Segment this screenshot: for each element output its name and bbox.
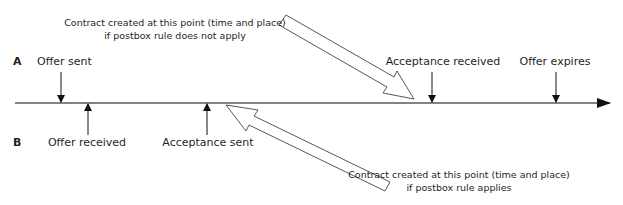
note-no-postbox: Contract created at this point (time and…: [64, 16, 286, 42]
note-no-postbox-line2: if postbox rule does not apply: [64, 29, 286, 42]
event-label-offer-sent: Offer sent: [37, 55, 92, 68]
event-label-offer-expires: Offer expires: [520, 55, 591, 68]
event-label-acceptance-received: Acceptance received: [386, 55, 501, 68]
event-label-acceptance-sent: Acceptance sent: [162, 136, 253, 149]
note-no-postbox-line1: Contract created at this point (time and…: [64, 16, 286, 29]
note-postbox-line1: Contract created at this point (time and…: [348, 168, 570, 181]
row-label-b: B: [13, 136, 21, 149]
row-label-a: A: [13, 55, 22, 68]
note-postbox-line2: if postbox rule applies: [348, 181, 570, 194]
note-postbox: Contract created at this point (time and…: [348, 168, 570, 194]
event-label-offer-received: Offer received: [48, 136, 126, 149]
